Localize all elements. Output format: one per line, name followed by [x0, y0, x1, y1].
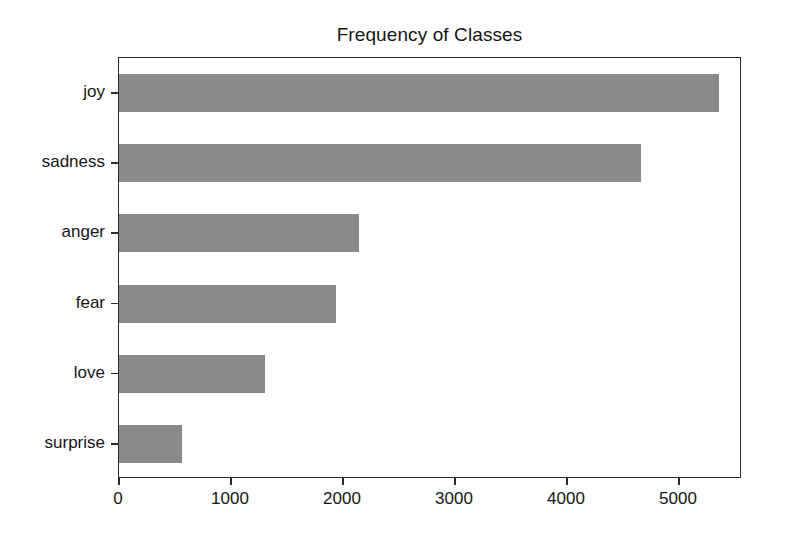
y-tick-label-fear: fear: [76, 293, 105, 313]
y-tick-mark-fear: [111, 303, 118, 305]
bar-surprise: [119, 425, 182, 463]
plot-area: [118, 57, 741, 478]
x-tick-mark-1000: [230, 478, 232, 485]
y-tick-label-love: love: [74, 363, 105, 383]
x-tick-label-3000: 3000: [435, 489, 473, 509]
x-tick-label-1000: 1000: [211, 489, 249, 509]
bar-love: [119, 355, 265, 393]
y-tick-mark-sadness: [111, 162, 118, 164]
y-tick-mark-joy: [111, 92, 118, 94]
x-tick-mark-2000: [342, 478, 344, 485]
x-tick-mark-4000: [566, 478, 568, 485]
chart-title: Frequency of Classes: [118, 24, 741, 46]
y-tick-label-surprise: surprise: [45, 433, 105, 453]
x-tick-label-0: 0: [113, 489, 122, 509]
y-tick-mark-love: [111, 373, 118, 375]
x-tick-label-2000: 2000: [323, 489, 361, 509]
x-tick-mark-5000: [678, 478, 680, 485]
y-tick-mark-anger: [111, 232, 118, 234]
x-tick-mark-0: [118, 478, 120, 485]
bar-joy: [119, 74, 719, 112]
y-tick-label-anger: anger: [62, 222, 105, 242]
y-tick-mark-surprise: [111, 443, 118, 445]
x-tick-label-5000: 5000: [659, 489, 697, 509]
x-tick-mark-3000: [454, 478, 456, 485]
bar-sadness: [119, 144, 641, 182]
y-tick-label-joy: joy: [83, 82, 105, 102]
bar-fear: [119, 285, 336, 323]
y-tick-label-sadness: sadness: [42, 152, 105, 172]
chart-figure: Frequency of Classes joysadnessangerfear…: [0, 0, 786, 544]
x-tick-label-4000: 4000: [547, 489, 585, 509]
bar-anger: [119, 214, 359, 252]
